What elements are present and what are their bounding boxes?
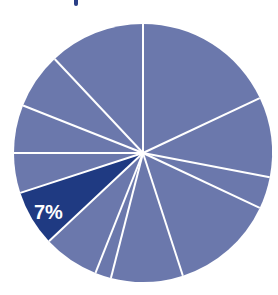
highlight-slice-label: 7% — [34, 202, 63, 222]
pie-chart — [0, 0, 278, 295]
